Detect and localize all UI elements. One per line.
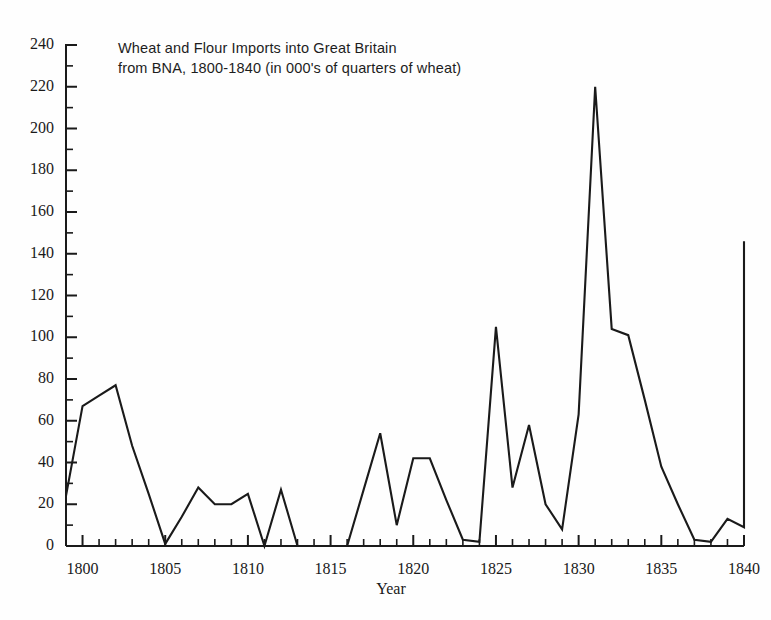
x-tick-label: 1810: [218, 560, 278, 578]
x-tick-label: 1840: [714, 560, 771, 578]
x-tick-label: 1825: [466, 560, 526, 578]
y-tick-label: 180: [10, 160, 54, 178]
y-tick-label: 160: [10, 202, 54, 220]
y-tick-label: 60: [10, 411, 54, 429]
y-tick-label: 100: [10, 327, 54, 345]
y-tick-label: 0: [10, 536, 54, 554]
y-tick-label: 20: [10, 494, 54, 512]
y-tick-label: 140: [10, 244, 54, 262]
y-tick-label: 40: [10, 453, 54, 471]
y-tick-label: 220: [10, 77, 54, 95]
y-tick-label: 200: [10, 119, 54, 137]
chart-plot-area: [0, 0, 771, 620]
axis-ticks-group: [66, 45, 744, 546]
y-tick-label: 80: [10, 369, 54, 387]
y-tick-label: 120: [10, 286, 54, 304]
x-tick-label: 1805: [135, 560, 195, 578]
data-series-line: [66, 87, 744, 546]
x-axis-label: Year: [331, 580, 451, 598]
y-tick-label: 240: [10, 35, 54, 53]
x-tick-label: 1830: [549, 560, 609, 578]
x-tick-label: 1820: [383, 560, 443, 578]
x-tick-label: 1835: [631, 560, 691, 578]
x-tick-label: 1815: [301, 560, 361, 578]
chart-figure: Wheat and Flour Imports into Great Brita…: [0, 0, 771, 620]
x-tick-label: 1800: [53, 560, 113, 578]
axes-group: [66, 44, 744, 546]
